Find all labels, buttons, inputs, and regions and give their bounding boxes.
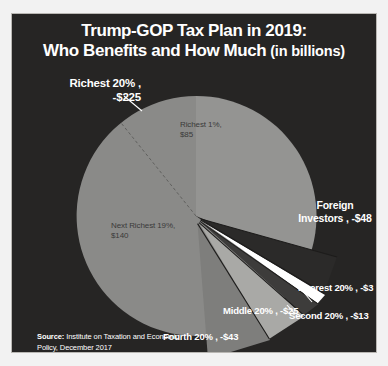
label-next-richest-19-line-2: $140 bbox=[111, 231, 175, 241]
source-citation: Source: Institute on Taxation and Econom… bbox=[37, 332, 197, 353]
label-second-20: Second 20% , -$13 bbox=[289, 310, 369, 322]
chart-panel: Trump-GOP Tax Plan in 2019: Who Benefits… bbox=[11, 13, 377, 353]
label-richest-20: Richest 20% , -$225 bbox=[23, 76, 141, 105]
label-richest-20-line-1: Richest 20% , bbox=[23, 76, 141, 90]
label-poorest-20: Poorest 20% , -$3 bbox=[298, 282, 373, 294]
label-middle-20: Middle 20% , -$25 bbox=[223, 305, 298, 317]
label-richest-20-line-2: -$225 bbox=[23, 90, 141, 104]
label-richest-1-line-2: $85 bbox=[180, 130, 222, 140]
pie-chart bbox=[12, 14, 377, 353]
label-next-richest-19: Next Richest 19%, $140 bbox=[111, 221, 175, 242]
label-foreign-investors-line-1: Foreign bbox=[280, 199, 377, 212]
chart-figure: Trump-GOP Tax Plan in 2019: Who Benefits… bbox=[0, 0, 388, 366]
label-next-richest-19-line-1: Next Richest 19%, bbox=[111, 221, 175, 231]
label-richest-1-line-1: Richest 1%, bbox=[180, 120, 222, 130]
label-foreign-investors-line-2: Investors , -$48 bbox=[280, 212, 377, 225]
source-prefix: Source: bbox=[37, 332, 64, 341]
label-richest-1: Richest 1%, $85 bbox=[180, 120, 222, 141]
label-foreign-investors: Foreign Investors , -$48 bbox=[280, 199, 377, 225]
